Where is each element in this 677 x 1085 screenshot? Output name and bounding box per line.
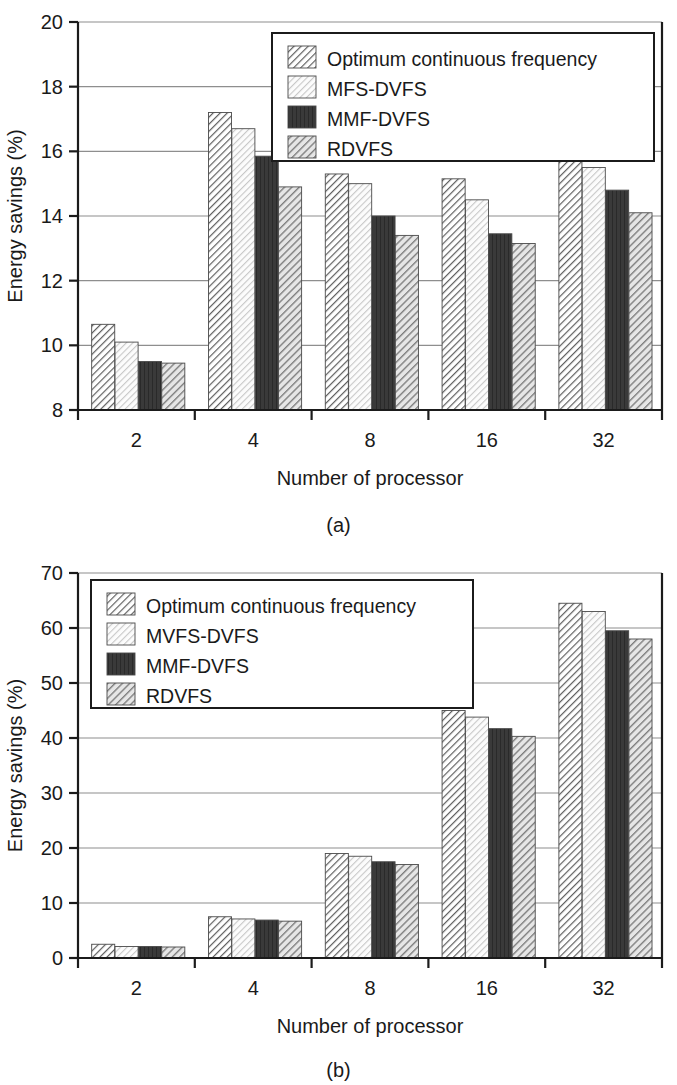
legend-label-0: Optimum continuous frequency: [146, 595, 416, 617]
y-tick-label: 14: [41, 205, 63, 227]
y-tick-label: 30: [41, 782, 63, 804]
bar-4-series-3: [279, 921, 302, 958]
bar-2-series-2: [138, 362, 161, 411]
bar-8-series-2: [372, 862, 395, 958]
bar-32-series-0: [559, 153, 582, 410]
y-tick-label: 18: [41, 76, 63, 98]
chart-panel-a: 81012141618202481632Number of processorE…: [0, 0, 677, 540]
y-tick-label: 20: [41, 11, 63, 33]
bar-16-series-3: [512, 243, 535, 410]
legend-label-2: MMF-DVFS: [146, 655, 249, 677]
bar-chart-b: 0102030405060702481632Number of processo…: [0, 540, 677, 1085]
chart-panel-b: 0102030405060702481632Number of processo…: [0, 540, 677, 1085]
panel-caption: (a): [326, 514, 350, 536]
y-axis-ticks: 8101214161820: [41, 11, 78, 421]
legend-label-1: MFS-DVFS: [327, 78, 427, 100]
bar-group-8: [325, 174, 418, 410]
bar-4-series-1: [232, 129, 255, 410]
bar-16-series-1: [465, 717, 488, 958]
bar-32-series-3: [629, 213, 652, 410]
x-tick-label-2: 2: [131, 977, 142, 999]
y-axis-title: Energy savings (%): [4, 679, 26, 852]
bar-16-series-3: [512, 736, 535, 958]
x-tick-label-32: 32: [592, 977, 614, 999]
y-tick-label: 0: [52, 947, 63, 969]
bar-4-series-2: [255, 156, 278, 410]
legend-swatch-3: [107, 683, 135, 705]
x-tick-label-32: 32: [592, 429, 614, 451]
bar-2-series-3: [162, 363, 185, 410]
bar-chart-a: 81012141618202481632Number of processorE…: [0, 0, 677, 540]
panel-caption: (b): [326, 1059, 350, 1081]
bar-2-series-3: [162, 947, 185, 958]
y-tick-label: 8: [52, 399, 63, 421]
legend-swatch-2: [288, 106, 316, 128]
bar-group-4: [208, 917, 301, 958]
x-axis-ticks: 2481632: [78, 410, 662, 451]
x-tick-label-16: 16: [476, 429, 498, 451]
bar-8-series-0: [325, 174, 348, 410]
y-tick-label: 12: [41, 270, 63, 292]
bar-32-series-3: [629, 639, 652, 958]
bar-32-series-2: [606, 190, 629, 410]
bar-group-32: [559, 153, 652, 410]
bar-8-series-2: [372, 216, 395, 410]
bar-32-series-1: [582, 612, 605, 959]
bar-2-series-0: [92, 944, 115, 958]
bar-4-series-2: [255, 920, 278, 958]
bar-2-series-1: [115, 946, 138, 958]
y-tick-label: 10: [41, 334, 63, 356]
x-tick-label-4: 4: [248, 429, 259, 451]
y-tick-label: 10: [41, 892, 63, 914]
y-axis-ticks: 010203040506070: [41, 562, 78, 969]
x-axis-title: Number of processor: [277, 1015, 464, 1037]
y-tick-label: 70: [41, 562, 63, 584]
bar-4-series-1: [232, 919, 255, 958]
bar-8-series-3: [395, 865, 418, 959]
bar-group-8: [325, 854, 418, 959]
bar-group-2: [92, 324, 185, 410]
y-tick-label: 50: [41, 672, 63, 694]
x-tick-label-2: 2: [131, 429, 142, 451]
bar-16-series-2: [489, 234, 512, 410]
legend-swatch-2: [107, 653, 135, 675]
bar-32-series-1: [582, 168, 605, 411]
y-tick-label: 16: [41, 140, 63, 162]
legend-swatch-1: [107, 623, 135, 645]
x-tick-label-4: 4: [248, 977, 259, 999]
bar-16-series-1: [465, 200, 488, 410]
bar-4-series-0: [208, 113, 231, 410]
legend-swatch-0: [288, 46, 316, 68]
legend-label-2: MMF-DVFS: [327, 108, 430, 130]
legend-label-3: RDVFS: [327, 138, 393, 160]
legend-swatch-1: [288, 76, 316, 98]
bar-8-series-1: [349, 856, 372, 958]
x-axis-ticks: 2481632: [78, 958, 662, 999]
bar-4-series-0: [208, 917, 231, 958]
bar-group-16: [442, 711, 535, 959]
bar-4-series-3: [279, 187, 302, 410]
legend-swatch-0: [107, 593, 135, 615]
bar-16-series-2: [489, 729, 512, 958]
legend-swatch-3: [288, 136, 316, 158]
x-tick-label-16: 16: [476, 977, 498, 999]
bar-32-series-0: [559, 603, 582, 958]
y-tick-label: 20: [41, 837, 63, 859]
bar-32-series-2: [606, 631, 629, 958]
bar-2-series-2: [138, 946, 161, 958]
legend-label-3: RDVFS: [146, 685, 212, 707]
bar-8-series-3: [395, 235, 418, 410]
bar-8-series-1: [349, 184, 372, 410]
x-tick-label-8: 8: [364, 429, 375, 451]
bar-group-2: [92, 944, 185, 958]
x-tick-label-8: 8: [364, 977, 375, 999]
bar-2-series-0: [92, 324, 115, 410]
y-axis-title: Energy savings (%): [4, 129, 26, 302]
bar-16-series-0: [442, 179, 465, 410]
y-tick-label: 60: [41, 617, 63, 639]
x-axis-title: Number of processor: [277, 467, 464, 489]
chart-legend: Optimum continuous frequencyMFS-DVFSMMF-…: [272, 33, 654, 161]
bar-8-series-0: [325, 854, 348, 959]
legend-label-0: Optimum continuous frequency: [327, 48, 597, 70]
y-tick-label: 40: [41, 727, 63, 749]
